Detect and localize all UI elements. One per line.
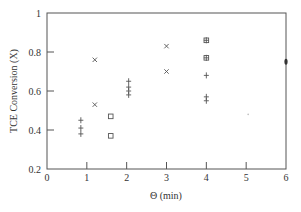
dot-marker — [247, 114, 249, 116]
x-axis-ticks: 0123456 — [45, 162, 289, 183]
square-markers — [108, 38, 208, 138]
plus-marker — [126, 92, 131, 98]
plot-frame — [47, 13, 286, 169]
plus-marker — [204, 98, 209, 104]
cross-marker — [164, 69, 168, 73]
y-tick-label: 0.2 — [29, 164, 42, 175]
plus-marker — [78, 117, 83, 123]
cross-marker — [93, 58, 97, 62]
y-tick-label: 0.4 — [29, 125, 42, 136]
cross-marker — [93, 102, 97, 106]
plus-marker — [78, 125, 83, 131]
plot-axes — [47, 13, 286, 169]
plus-marker — [78, 131, 83, 137]
plus-marker — [204, 72, 209, 78]
dot-marker — [284, 59, 287, 65]
cross-marker — [164, 44, 168, 48]
y-tick-label: 0.6 — [29, 86, 42, 97]
filled-markers — [247, 59, 287, 115]
plus-markers — [78, 37, 208, 137]
plus-marker — [126, 78, 131, 84]
x-tick-label: 3 — [164, 172, 169, 183]
x-tick-label: 2 — [124, 172, 129, 183]
y-tick-label: 1 — [36, 8, 41, 19]
y-tick-label: 0.8 — [29, 47, 42, 58]
scatter-chart: 0123456 0.20.40.60.81 Θ (min) TCE Conver… — [0, 0, 301, 212]
x-tick-label: 4 — [204, 172, 209, 183]
data-points — [78, 37, 287, 138]
cross-markers — [93, 44, 169, 107]
x-tick-label: 0 — [45, 172, 50, 183]
x-tick-label: 1 — [84, 172, 89, 183]
y-axis-label: TCE Conversion (X) — [8, 49, 20, 133]
square-marker — [108, 114, 113, 119]
square-marker — [108, 134, 113, 139]
x-tick-label: 6 — [284, 172, 289, 183]
x-axis-label: Θ (min) — [150, 190, 182, 202]
y-axis-ticks: 0.20.40.60.81 — [29, 8, 55, 175]
x-tick-label: 5 — [244, 172, 249, 183]
